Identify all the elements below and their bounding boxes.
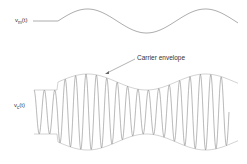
modulated-carrier-wave [34,74,229,150]
am-waveform-diagram [0,0,247,164]
envelope-lower [34,134,238,150]
modulating-wave [33,9,238,33]
arrowhead-icon [105,71,109,74]
envelope-pointer-arrow [107,59,135,73]
